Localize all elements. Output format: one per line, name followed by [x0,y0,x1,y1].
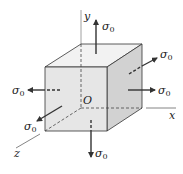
stress-label-front: σ0 [24,120,37,134]
arrow-back [142,58,157,66]
y-axis-label: y [83,10,91,23]
stress-label-right: σ0 [158,84,171,98]
x-axis-label: x [169,109,176,122]
z-axis-label: z [13,147,20,160]
stress-label-top: σ0 [102,20,115,34]
stress-cube-diagram: y x z O σ0 σ0 σ0 σ0 σ0 σ0 [0,0,183,174]
z-axis [16,134,40,148]
stress-label-bottom: σ0 [95,147,108,161]
stress-label-left: σ0 [12,84,25,98]
front-face [45,67,107,131]
origin-label: O [83,94,92,107]
stress-label-back: σ0 [160,48,173,62]
cube [45,44,142,131]
